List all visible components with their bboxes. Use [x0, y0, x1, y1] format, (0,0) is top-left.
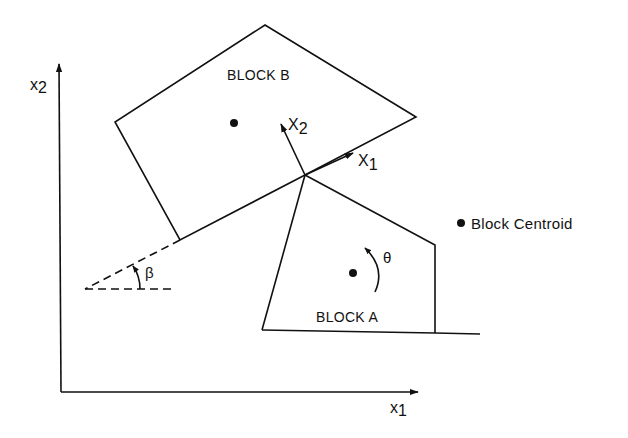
- beta-inclined-dashed-line: [85, 240, 180, 289]
- block-b-outline: [115, 25, 416, 240]
- block-contact-diagram: x2 x1 BLOCK B BLOCK A θ X1 X2: [0, 0, 628, 438]
- block-a-left-edge: [262, 175, 305, 330]
- block-a-bottom-edge: [262, 330, 435, 333]
- block-b-centroid-icon: [230, 119, 238, 127]
- rotation-arrow-icon: [365, 248, 379, 292]
- legend: Block Centroid: [457, 215, 573, 232]
- ground-line: [435, 333, 480, 334]
- global-y-axis: [59, 64, 61, 392]
- rotation-theta-label: θ: [383, 249, 391, 266]
- block-a-label: BLOCK A: [316, 309, 378, 325]
- local-x1-axis-arrow: [305, 153, 353, 175]
- global-y-axis-label: x2: [30, 76, 47, 96]
- legend-text: Block Centroid: [471, 215, 573, 232]
- beta-label: β: [145, 264, 154, 281]
- block-b-label: BLOCK B: [227, 67, 290, 83]
- global-axes: x2 x1: [30, 64, 418, 419]
- block-a: BLOCK A θ: [262, 175, 435, 333]
- local-x2-label: X2: [288, 116, 308, 137]
- legend-centroid-dot-icon: [457, 219, 465, 227]
- beta-angle: β: [85, 240, 180, 289]
- local-x1-label: X1: [358, 152, 378, 173]
- beta-arc-arrow-icon: [133, 266, 140, 289]
- block-b: BLOCK B: [115, 25, 416, 240]
- block-a-centroid-icon: [349, 269, 357, 277]
- global-x-axis-label: x1: [390, 399, 407, 419]
